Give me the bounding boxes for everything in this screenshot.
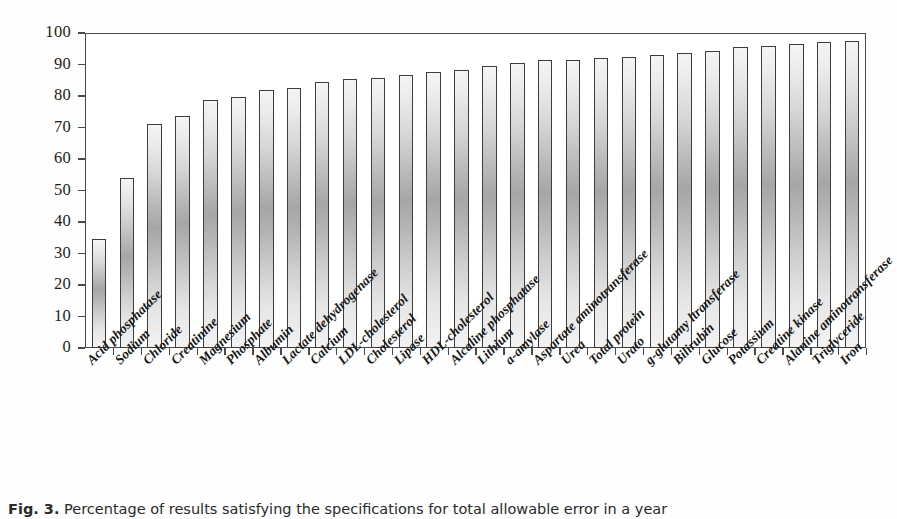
y-axis-tick-label: 60 (54, 148, 71, 168)
bar-slot (782, 33, 810, 348)
y-axis-tick-mark (78, 316, 85, 318)
bar-slot (559, 33, 587, 348)
bar-slot (197, 33, 225, 348)
y-axis-tick-label: 50 (54, 180, 71, 200)
bar (287, 88, 302, 348)
bar-slot (420, 33, 448, 348)
bar (147, 124, 162, 348)
bar (566, 60, 581, 348)
y-axis-tick-mark (78, 64, 85, 66)
y-axis-tick-label: 0 (62, 337, 71, 357)
bar (203, 100, 218, 348)
y-axis-tick-mark (78, 158, 85, 160)
bar-slot (169, 33, 197, 348)
y-axis-tick-label: 70 (54, 117, 71, 137)
y-axis-tick-mark (78, 127, 85, 129)
bar-slot (308, 33, 336, 348)
y-axis-tick-mark (78, 95, 85, 97)
y-axis-tick-label: 30 (54, 243, 71, 263)
figure-caption: Fig. 3. Percentage of results satisfying… (8, 500, 886, 519)
bar-slot (531, 33, 559, 348)
bar (175, 116, 190, 348)
bar (622, 57, 637, 348)
bar (650, 55, 665, 348)
y-axis-tick-mark (78, 253, 85, 255)
caption-figure-number: Fig. 3. (8, 501, 59, 517)
bar-slot (280, 33, 308, 348)
bar-slot (252, 33, 280, 348)
bar-slot (671, 33, 699, 348)
y-axis-tick-mark (78, 32, 85, 34)
bar (92, 239, 107, 348)
bar (259, 90, 274, 348)
bar (426, 72, 441, 348)
bar (677, 53, 692, 348)
caption-body: Percentage of results satisfying the spe… (64, 501, 667, 517)
bar-slot (224, 33, 252, 348)
y-axis-tick-label: 80 (54, 85, 71, 105)
bar-slot (85, 33, 113, 348)
bar-slot (113, 33, 141, 348)
bar-slot (615, 33, 643, 348)
bar (538, 60, 553, 348)
bar-slot (364, 33, 392, 348)
bar-slot (754, 33, 782, 348)
bar-slot (448, 33, 476, 348)
bar (733, 47, 748, 348)
bar (789, 44, 804, 348)
bar-slot (727, 33, 755, 348)
y-axis-tick-label: 20 (54, 274, 71, 294)
x-axis-labels: Acid phosphataseSodiumChlorideCreatinine… (85, 352, 889, 492)
y-axis-tick-label: 90 (54, 54, 71, 74)
y-axis: 0102030405060708090100 (0, 33, 85, 348)
y-axis-tick-label: 40 (54, 211, 71, 231)
y-axis-tick-mark (78, 284, 85, 286)
y-axis-tick-mark (78, 221, 85, 223)
y-axis-tick-mark (78, 190, 85, 192)
y-axis-tick-mark (78, 347, 85, 349)
bar (761, 46, 776, 348)
bar (454, 70, 469, 348)
y-axis-tick-label: 10 (54, 306, 71, 326)
bar-slot (643, 33, 671, 348)
y-axis-tick-label: 100 (45, 22, 71, 42)
